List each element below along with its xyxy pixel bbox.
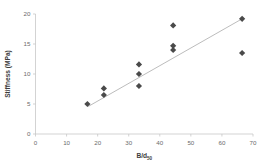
data-point-marker <box>239 16 245 22</box>
data-point-marker <box>101 85 107 91</box>
data-point-marker <box>136 83 142 89</box>
x-tick-label: 0 <box>34 139 38 146</box>
x-tick-label: 40 <box>156 139 163 146</box>
trendline <box>88 19 242 107</box>
data-point-marker <box>101 92 107 98</box>
x-axis-title-subscript: 50 <box>147 156 153 161</box>
data-point-marker <box>136 61 142 67</box>
y-tick-label: 15 <box>24 40 31 47</box>
scatter-chart: 05101520010203040506070Stiffness (MPa)B/… <box>0 0 271 167</box>
x-axis-title-base: B/d <box>136 152 147 159</box>
x-tick-label: 10 <box>63 139 70 146</box>
y-tick-label: 0 <box>27 130 31 137</box>
data-point-marker <box>170 22 176 28</box>
x-tick-label: 60 <box>218 139 225 146</box>
x-tick-label: 30 <box>125 139 132 146</box>
data-point-marker <box>170 47 176 53</box>
data-point-marker <box>239 50 245 56</box>
x-tick-label: 70 <box>250 139 257 146</box>
x-tick-label: 20 <box>94 139 101 146</box>
y-tick-label: 20 <box>24 10 31 17</box>
y-tick-label: 10 <box>24 70 31 77</box>
y-axis-title: Stiffness (MPa) <box>4 50 12 98</box>
y-tick-label: 5 <box>27 100 31 107</box>
x-tick-label: 50 <box>187 139 194 146</box>
x-axis-title: B/d50 <box>136 152 152 161</box>
chart-canvas: 05101520010203040506070Stiffness (MPa)B/… <box>0 0 271 167</box>
